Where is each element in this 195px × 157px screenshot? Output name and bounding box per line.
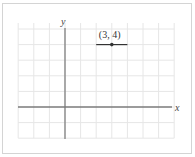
points: (3, 4) bbox=[99, 29, 121, 47]
coordinate-plane: x y (3, 4) bbox=[0, 0, 195, 157]
x-axis-label: x bbox=[174, 102, 180, 113]
grid bbox=[18, 23, 174, 138]
point-label: (3, 4) bbox=[99, 29, 121, 41]
y-axis-label: y bbox=[60, 16, 66, 27]
data-point bbox=[110, 43, 114, 47]
